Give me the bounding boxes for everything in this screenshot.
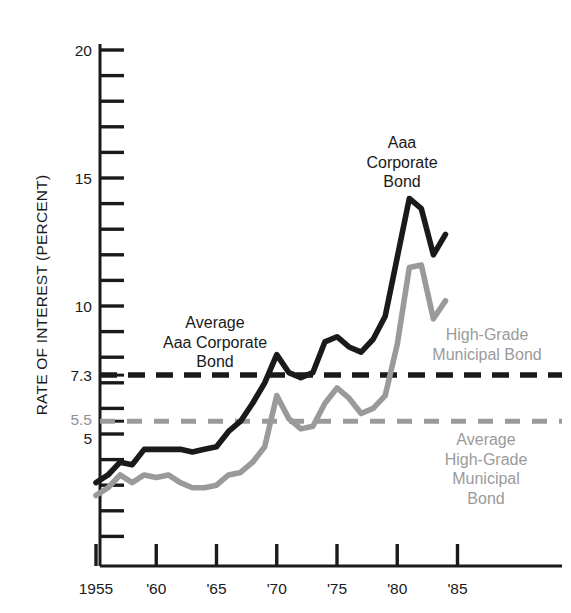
svg-text:15: 15 [75, 170, 92, 187]
svg-text:20: 20 [75, 42, 93, 59]
svg-text:10: 10 [75, 298, 93, 315]
svg-text:7.3: 7.3 [70, 367, 92, 384]
svg-text:'80: '80 [387, 580, 408, 597]
annotation-aaa-corporate-bond: Aaa Corporate Bond [287, 133, 517, 192]
annotation-average-high-grade-municipal-bond: Average High-Grade Municipal Bond [371, 430, 571, 508]
x-axis: 1955'60'65'70'75'80'85 [79, 544, 562, 597]
svg-text:'85: '85 [447, 580, 467, 597]
svg-text:'75: '75 [327, 580, 347, 597]
chart-plot-area: 2015107.35.55 1955'60'65'70'75'80'85 [0, 0, 571, 613]
svg-text:1955: 1955 [79, 580, 113, 597]
svg-text:'70: '70 [267, 580, 288, 597]
svg-text:5: 5 [83, 430, 92, 447]
interest-rate-chart: RATE OF INTEREST (PERCENT) 2015107.35.55… [0, 0, 571, 613]
annotation-high-grade-municipal-bond: High-Grade Municipal Bond [372, 325, 571, 364]
svg-text:5.5: 5.5 [70, 411, 92, 428]
y-axis: 2015107.35.55 [70, 42, 124, 566]
svg-text:'65: '65 [206, 580, 226, 597]
svg-text:'60: '60 [146, 580, 167, 597]
annotation-average-aaa-corporate-bond: Average Aaa Corporate Bond [100, 313, 330, 372]
